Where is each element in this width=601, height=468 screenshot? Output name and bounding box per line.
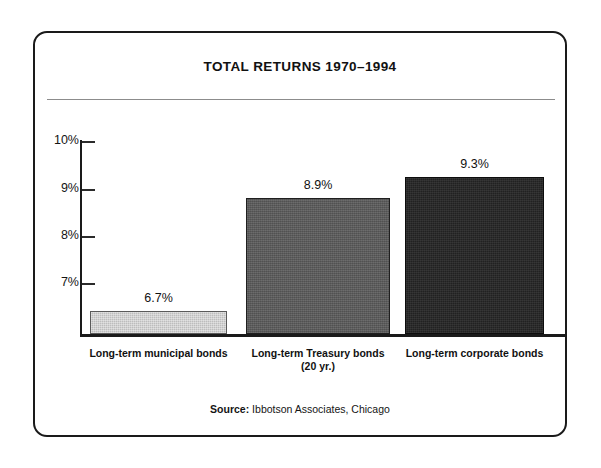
plot-area: 10% 9% 8% 7% 6.7% 8.9% 9.3% Long-term mu… xyxy=(35,33,565,435)
x-axis-category-label: Long-term corporate bonds xyxy=(387,347,562,360)
chart-card: TOTAL RETURNS 1970–1994 10% 9% 8% 7% xyxy=(33,31,567,437)
bar-long-term-treasury-bonds[interactable] xyxy=(246,198,390,334)
source-label: Source: xyxy=(210,403,249,415)
category-line: Long-term municipal bonds xyxy=(72,347,245,360)
category-line: (20 yr.) xyxy=(228,360,408,373)
bar-fill xyxy=(90,311,227,334)
y-axis-tick-label: 9% xyxy=(35,181,79,195)
category-line: Long-term Treasury bonds xyxy=(228,347,408,360)
x-axis-line xyxy=(80,334,567,337)
x-axis-category-label: Long-term Treasury bonds (20 yr.) xyxy=(228,347,408,373)
y-tick-mark-9 xyxy=(82,189,95,191)
bar-fill xyxy=(246,198,390,334)
bar-value-label: 8.9% xyxy=(246,178,390,192)
x-axis-category-label: Long-term municipal bonds xyxy=(72,347,245,360)
y-tick-mark-8 xyxy=(82,236,95,238)
y-tick-mark-10 xyxy=(82,141,95,143)
bar-long-term-corporate-bonds[interactable] xyxy=(405,177,544,334)
source-text: Ibbotson Associates, Chicago xyxy=(249,403,390,415)
bar-value-label: 9.3% xyxy=(405,157,544,171)
bar-fill xyxy=(405,177,544,334)
y-axis-tick-label: 7% xyxy=(35,275,79,289)
source-note: Source: Ibbotson Associates, Chicago xyxy=(35,403,565,415)
y-tick-mark-7 xyxy=(82,283,95,285)
bar-long-term-municipal-bonds[interactable] xyxy=(90,311,227,334)
category-line: Long-term corporate bonds xyxy=(387,347,562,360)
y-axis-line xyxy=(80,140,82,336)
y-axis-tick-label: 8% xyxy=(35,228,79,242)
bar-value-label: 6.7% xyxy=(90,291,227,305)
y-axis-tick-label: 10% xyxy=(35,133,79,147)
